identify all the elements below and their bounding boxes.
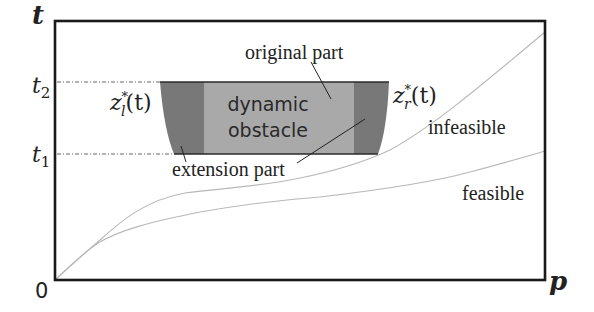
feasible-label: feasible (462, 182, 524, 204)
t1-label: t1 (32, 142, 50, 171)
infeasible-label: infeasible (428, 116, 506, 138)
t2-label: t2 (32, 73, 50, 102)
diagram-canvas: t p 0 t2 t1 z*l(t) z*r(t) dynamic obstac… (0, 0, 594, 312)
st-diagram: t p 0 t2 t1 z*l(t) z*r(t) dynamic obstac… (0, 0, 594, 312)
origin-label: 0 (35, 279, 48, 303)
obstacle-title-line1: dynamic (227, 93, 308, 115)
original-part-label: original part (245, 41, 344, 64)
right-extension-part (354, 82, 389, 154)
infeasible-trajectory-curve (56, 32, 545, 279)
extension-part-label: extension part (172, 158, 285, 181)
left-extension-part (160, 82, 204, 154)
feasible-trajectory-curve (56, 151, 545, 279)
x-axis-label: p (549, 266, 567, 296)
y-axis-label: t (32, 0, 44, 30)
obstacle-title-line2: obstacle (228, 119, 308, 141)
right-boundary-label: z*r(t) (392, 82, 437, 112)
left-boundary-label: z*l(t) (109, 89, 152, 119)
